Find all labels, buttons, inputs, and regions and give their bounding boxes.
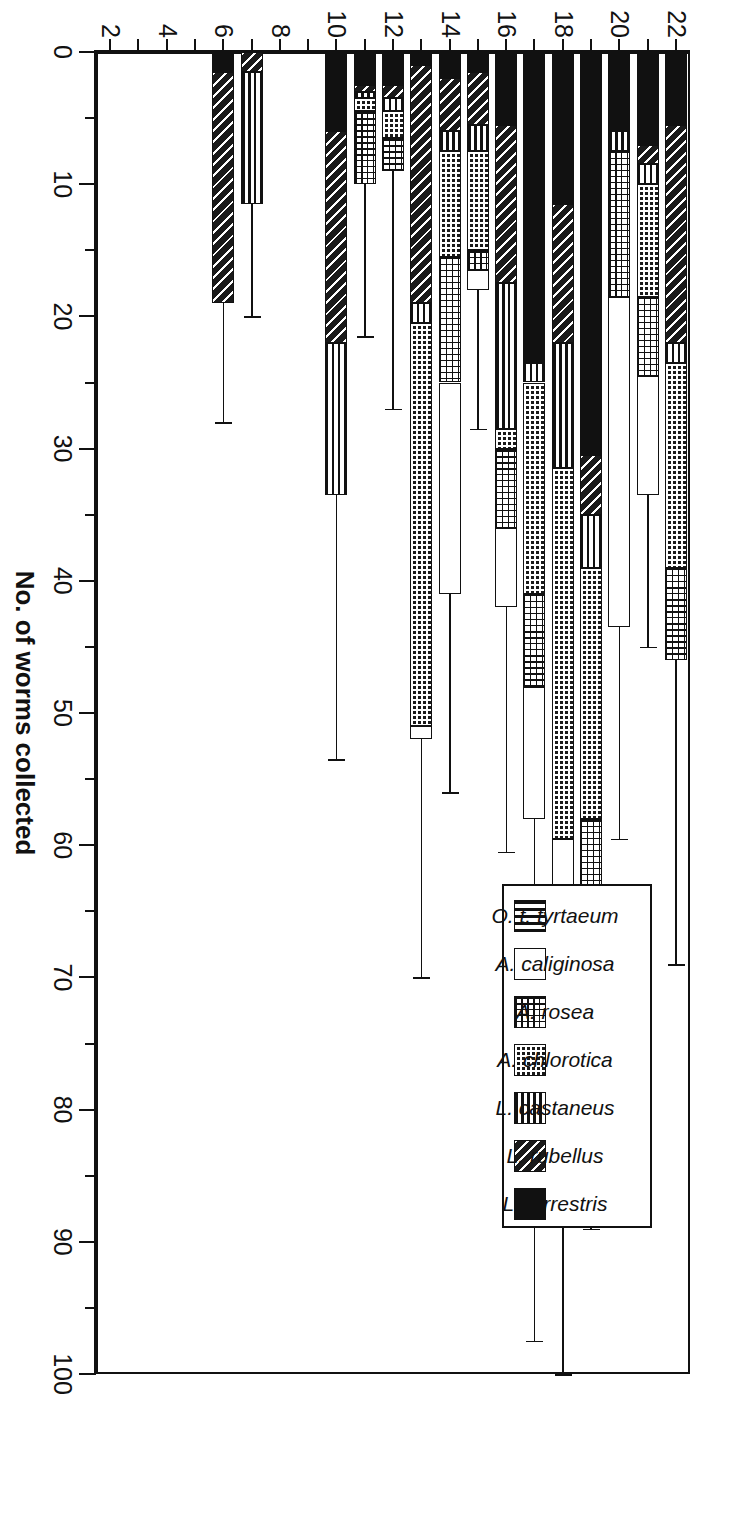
- error-bar-line: [647, 495, 649, 647]
- error-bar-cap: [442, 792, 459, 794]
- bar-segment: [580, 515, 602, 568]
- bar-segment: [354, 52, 376, 85]
- bar-site-4: [156, 0, 178, 1322]
- legend-label: L. terrestris: [502, 1195, 607, 1213]
- bar-site-8: [269, 0, 291, 1322]
- value-tick-label-10: 10: [48, 170, 77, 198]
- legend-item: A. rosea: [514, 996, 650, 1028]
- bar-site-15: [467, 0, 489, 1322]
- bar-segment: [580, 455, 602, 514]
- bar-segment: [637, 297, 659, 376]
- error-bar-cap: [244, 316, 261, 318]
- value-tick-5: [85, 117, 96, 119]
- value-tick-45: [85, 646, 96, 648]
- bar-segment: [354, 85, 376, 92]
- value-tick-label-0: 0: [48, 45, 77, 59]
- error-bar-cap: [470, 429, 487, 431]
- value-tick-35: [85, 514, 96, 516]
- bar-segment: [354, 111, 376, 184]
- chart-page: 0102030405060708090100 22201816141210864…: [0, 0, 732, 1536]
- legend-label: L. rubellus: [507, 1147, 604, 1165]
- bar-segment: [665, 343, 687, 363]
- legend-label: O. t. tyrtaeum: [491, 907, 618, 925]
- bar-segment: [523, 383, 545, 595]
- legend-label: A. caliginosa: [495, 955, 614, 973]
- value-tick-50: [79, 712, 96, 714]
- bar-segment: [495, 52, 517, 125]
- error-bar-line: [421, 739, 423, 977]
- value-tick-75: [85, 1043, 96, 1045]
- bar-segment: [439, 78, 461, 131]
- bar-site-2: [99, 0, 121, 1322]
- error-bar-line: [223, 303, 225, 422]
- bar-segment: [523, 594, 545, 687]
- error-bar-line: [675, 660, 677, 964]
- value-tick-30: [79, 448, 96, 450]
- bar-segment: [439, 257, 461, 383]
- value-tick-label-80: 80: [48, 1096, 77, 1124]
- error-bar-cap: [357, 336, 374, 338]
- bar-segment: [495, 125, 517, 284]
- bar-site-9: [297, 0, 319, 1322]
- bar-site-12: [382, 0, 404, 1322]
- value-axis-title: No. of worms collected: [9, 571, 40, 856]
- bar-site-3: [127, 0, 149, 1322]
- bar-segment: [608, 151, 630, 296]
- value-tick-60: [79, 844, 96, 846]
- bar-segment: [552, 52, 574, 204]
- bar-segment: [608, 131, 630, 151]
- bar-site-10: [325, 0, 347, 1322]
- bar-site-6: [212, 0, 234, 1322]
- bar-segment: [552, 204, 574, 343]
- bar-segment: [439, 383, 461, 595]
- error-bar-cap: [215, 422, 232, 424]
- error-bar-cap: [413, 977, 430, 979]
- error-bar-line: [449, 594, 451, 792]
- value-tick-0: [79, 51, 96, 53]
- bar-segment: [354, 92, 376, 99]
- value-tick-40: [79, 580, 96, 582]
- error-bar-line: [506, 607, 508, 852]
- value-tick-label-70: 70: [48, 963, 77, 991]
- bar-segment: [552, 468, 574, 838]
- bar-segment: [382, 52, 404, 85]
- bar-segment: [354, 98, 376, 111]
- bar-segment: [495, 528, 517, 607]
- bar-segment: [467, 72, 489, 125]
- legend-label: L. castaneus: [495, 1099, 614, 1117]
- legend-item: A. chlorotica: [514, 1044, 650, 1076]
- error-bar-cap: [385, 409, 402, 411]
- bar-segment: [523, 52, 545, 363]
- bar-segment: [637, 52, 659, 145]
- legend-item: L. rubellus: [514, 1140, 650, 1172]
- value-tick-100: [79, 1373, 96, 1375]
- value-tick-label-40: 40: [48, 567, 77, 595]
- bar-segment: [325, 52, 347, 131]
- legend-item: L. castaneus: [514, 1092, 650, 1124]
- error-bar-line: [619, 627, 621, 839]
- bar-site-22: [665, 0, 687, 1322]
- bar-segment: [212, 52, 234, 72]
- bar-segment: [241, 52, 263, 72]
- bar-segment: [325, 343, 347, 495]
- bar-segment: [608, 297, 630, 628]
- bar-segment: [580, 52, 602, 455]
- error-bar-cap: [640, 647, 657, 649]
- bar-segment: [467, 151, 489, 250]
- value-tick-20: [79, 315, 96, 317]
- legend: O. t. tyrtaeumA. caliginosaA. roseaA. ch…: [502, 884, 652, 1228]
- bar-site-13: [410, 0, 432, 1322]
- bar-segment: [439, 131, 461, 151]
- error-bar-cap: [555, 1374, 572, 1376]
- value-tick-label-20: 20: [48, 302, 77, 330]
- bar-segment: [241, 72, 263, 204]
- bar-segment: [637, 145, 659, 165]
- value-tick-25: [85, 382, 96, 384]
- value-tick-label-100: 100: [48, 1353, 77, 1395]
- error-bar-cap: [328, 759, 345, 761]
- bar-segment: [212, 72, 234, 303]
- legend-label: A. rosea: [516, 1003, 594, 1021]
- bar-segment: [467, 125, 489, 151]
- bar-site-5: [184, 0, 206, 1322]
- bar-segment: [580, 568, 602, 819]
